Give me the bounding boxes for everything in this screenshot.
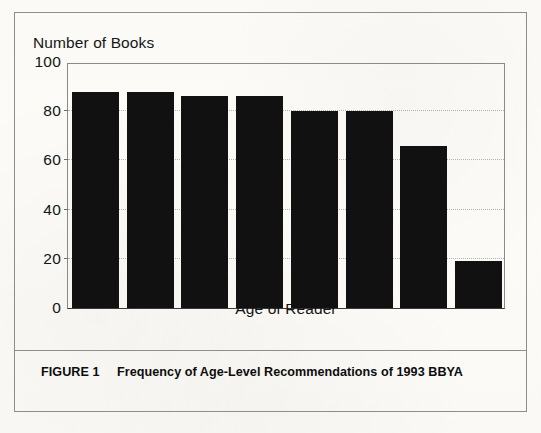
y-axis-tick-label-100: 100 (35, 53, 61, 71)
bar-17 (346, 111, 393, 308)
plot-area: 020406080100 (67, 63, 505, 309)
figure-caption-text: Frequency of Age-Level Recommendations o… (117, 365, 463, 379)
bar-12 (72, 92, 119, 308)
caption-divider (15, 350, 526, 351)
y-axis-tick-label-0: 0 (52, 299, 61, 317)
y-axis-tick-label-40: 40 (43, 201, 61, 219)
bar-18 (400, 146, 447, 308)
y-axis-tick-label-20: 20 (43, 250, 61, 268)
figure-frame: Number of Books 020406080100 12131415161… (14, 12, 527, 412)
bars-group (68, 64, 504, 308)
y-axis-tick-20 (64, 258, 68, 259)
figure-caption: FIGURE 1 Frequency of Age-Level Recommen… (41, 365, 463, 379)
bar-15 (236, 96, 283, 308)
y-axis-tick-label-60: 60 (43, 151, 61, 169)
bar-Adult (455, 261, 502, 308)
y-axis-tick-80 (64, 110, 68, 111)
y-axis-tick-60 (64, 159, 68, 160)
y-axis-tick-40 (64, 209, 68, 210)
bar-13 (127, 92, 174, 308)
figure-number-label: FIGURE 1 (41, 365, 99, 379)
y-axis-title: Number of Books (33, 34, 154, 52)
y-axis-tick-label-80: 80 (43, 102, 61, 120)
bar-14 (181, 96, 228, 308)
bar-16 (291, 111, 338, 308)
